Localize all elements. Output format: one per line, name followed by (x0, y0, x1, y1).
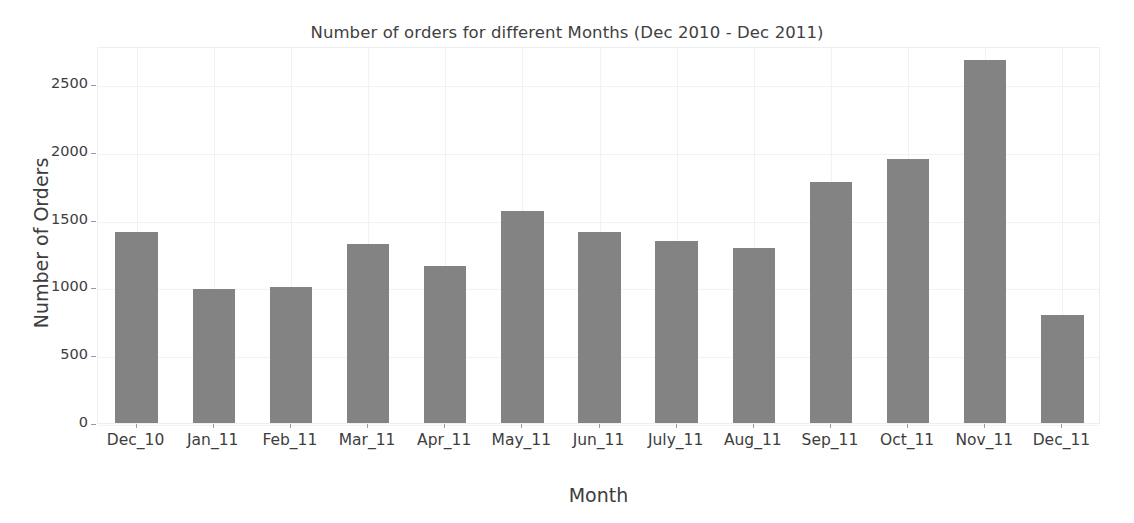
y-tick-mark (91, 153, 96, 154)
x-tick-label: Nov_11 (946, 431, 1023, 449)
x-tick-mark (444, 424, 445, 428)
x-tick-mark (213, 424, 214, 428)
y-tick-label: 1500 (18, 211, 88, 227)
y-tick-mark (91, 424, 96, 425)
bar-july_11 (655, 241, 697, 423)
x-tick-label: Oct_11 (869, 431, 946, 449)
y-tick-label: 1000 (18, 278, 88, 294)
x-tick-label: Dec_11 (1023, 431, 1100, 449)
y-tick-mark (91, 85, 96, 86)
x-tick-label: Feb_11 (251, 431, 328, 449)
bar-nov_11 (964, 60, 1006, 423)
bar-dec_10 (115, 232, 157, 423)
y-tick-mark (91, 288, 96, 289)
y-tick-label: 2500 (18, 75, 88, 91)
y-tick-label: 2000 (18, 143, 88, 159)
bar-aug_11 (733, 248, 775, 423)
bar-jun_11 (578, 232, 620, 423)
bar-mar_11 (347, 244, 389, 423)
bar-sep_11 (810, 182, 852, 423)
x-tick-label: Dec_10 (97, 431, 174, 449)
x-axis-label: Month (97, 484, 1100, 506)
x-tick-mark (830, 424, 831, 428)
y-tick-mark (91, 221, 96, 222)
plot-inner (98, 48, 1099, 423)
x-tick-mark (521, 424, 522, 428)
x-tick-label: May_11 (483, 431, 560, 449)
x-tick-label: Jan_11 (174, 431, 251, 449)
x-tick-label: Apr_11 (406, 431, 483, 449)
x-tick-label: Mar_11 (328, 431, 405, 449)
x-tick-mark (367, 424, 368, 428)
y-tick-label: 500 (18, 346, 88, 362)
bar-apr_11 (424, 266, 466, 423)
x-tick-mark (136, 424, 137, 428)
y-axis-label: Number of Orders (30, 98, 52, 388)
y-tick-mark (91, 356, 96, 357)
bar-may_11 (501, 211, 543, 423)
x-tick-label: Sep_11 (791, 431, 868, 449)
bar-jan_11 (193, 289, 235, 423)
x-tick-mark (907, 424, 908, 428)
page-title: Number of orders for different Months (D… (0, 23, 1134, 42)
bar-dec_11 (1041, 315, 1083, 423)
plot-area (97, 47, 1100, 424)
x-tick-label: Aug_11 (714, 431, 791, 449)
x-tick-mark (290, 424, 291, 428)
x-tick-label: Jun_11 (560, 431, 637, 449)
bar-feb_11 (270, 287, 312, 423)
gridline-horizontal (98, 154, 1099, 155)
x-tick-mark (676, 424, 677, 428)
bar-chart-figure: Number of orders for different Months (D… (0, 0, 1134, 523)
x-tick-mark (1061, 424, 1062, 428)
bar-oct_11 (887, 159, 929, 423)
y-tick-label: 0 (18, 414, 88, 430)
x-tick-label: July_11 (637, 431, 714, 449)
gridline-horizontal (98, 86, 1099, 87)
x-tick-mark (599, 424, 600, 428)
gridline-horizontal (98, 222, 1099, 223)
x-tick-mark (753, 424, 754, 428)
x-tick-mark (984, 424, 985, 428)
